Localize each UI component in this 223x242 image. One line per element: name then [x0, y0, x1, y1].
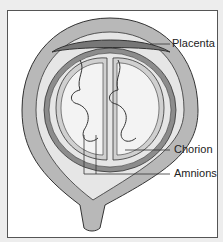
- label-chorion: Chorion: [174, 143, 213, 155]
- label-placenta: Placenta: [172, 37, 215, 49]
- label-amnions: Amnions: [174, 167, 217, 179]
